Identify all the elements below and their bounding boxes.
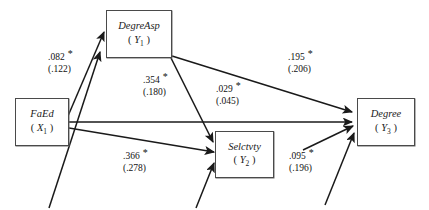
significance-asterisk: * [68,48,73,59]
node-degreasp-symbol: ( Y1 ) [128,34,150,48]
coef-estimate: .095 [289,151,306,163]
coef-faed-to-degree: .029* (.045) [216,83,239,108]
significance-asterisk: * [163,71,168,82]
node-selctvty-symbol: ( Y2 ) [234,154,256,168]
node-faed-label: FaEd [30,108,53,120]
node-degree-symbol: ( Y3 ) [375,122,397,136]
coef-degreasp-to-degree: .195* (.206) [288,51,311,76]
node-degree[interactable]: Degree ( Y3 ) [357,98,415,146]
node-faed[interactable]: FaEd ( X1 ) [15,98,69,146]
node-faed-symbol: ( X1 ) [31,122,53,136]
coef-estimate: .366 [123,151,140,163]
path-degreasp-to-selctvty [171,58,213,142]
node-degree-label: Degree [371,108,402,120]
node-selctvty[interactable]: Selctvty ( Y2 ) [215,131,274,178]
disturbance-degree [325,133,354,205]
coef-faed-to-selctvty: .366* (.278) [123,150,146,175]
path-diagram: FaEd ( X1 ) DegreAsp ( Y1 ) Selctvty ( Y… [0,0,429,210]
coef-estimate: .082 [48,52,65,64]
coef-standard-error: (.122) [48,64,71,76]
node-degreasp-label: DegreAsp [118,20,160,32]
path-faed-to-degreasp [68,32,104,116]
coef-faed-to-degreasp: .082* (.122) [48,51,71,76]
coef-estimate: .029 [216,84,233,96]
coef-estimate: .354 [143,75,160,87]
coef-standard-error: (.196) [289,163,312,175]
path-degreasp-to-degree [172,56,352,112]
disturbance-selctvty [196,163,214,208]
coef-selctvty-to-degree: .095* (.196) [289,150,312,175]
significance-asterisk: * [309,147,314,158]
coef-standard-error: (.180) [143,87,166,99]
node-degreasp[interactable]: DegreAsp ( Y1 ) [106,10,172,58]
coef-standard-error: (.206) [288,64,311,76]
path-faed-to-selctvty [69,128,214,152]
node-selctvty-label: Selctvty [228,141,261,153]
significance-asterisk: * [143,147,148,158]
coef-standard-error: (.278) [123,163,146,175]
coef-estimate: .195 [288,52,305,64]
significance-asterisk: * [308,48,313,59]
coef-standard-error: (.045) [216,96,239,108]
coef-degreasp-to-selctvty: .354* (.180) [143,74,166,99]
significance-asterisk: * [236,80,241,91]
